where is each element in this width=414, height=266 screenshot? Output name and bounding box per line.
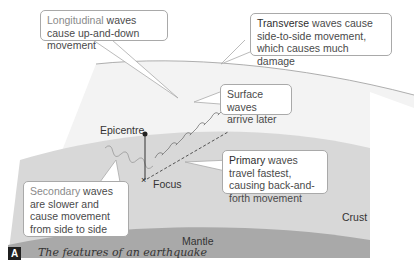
secondary-callout: Secondary waves are slower and cause mov…: [23, 181, 129, 237]
focus-label: Focus: [153, 178, 182, 190]
epicentre-label: Epicentre: [100, 124, 144, 136]
longitudinal-callout: Longitudinal waves cause up-and-down mov…: [40, 10, 168, 41]
figure-badge: A: [8, 247, 21, 260]
secondary-keyword: Secondary: [30, 185, 80, 197]
longitudinal-keyword: Longitudinal: [47, 14, 104, 26]
surface-callout: Surface waves arrive later: [220, 84, 292, 115]
crust-label: Crust: [342, 211, 367, 223]
primary-callout: Primary waves travel fastest, causing ba…: [222, 150, 328, 194]
focus-marker: ×: [141, 175, 146, 185]
primary-keyword: Primary: [229, 154, 265, 166]
surface-text: Surface waves arrive later: [227, 88, 277, 125]
transverse-keyword: Transverse: [257, 17, 309, 29]
figure-caption: The features of an earthquake: [38, 246, 207, 259]
transverse-callout: Transverse waves cause side-to-side move…: [250, 13, 392, 56]
